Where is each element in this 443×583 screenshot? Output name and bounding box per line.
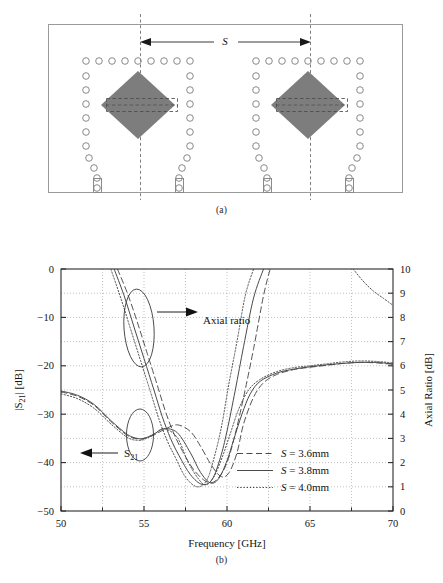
ytick-label-right: 0 [400, 506, 405, 517]
ytick-label-right: 1 [400, 481, 405, 492]
figure-container: S [0, 0, 443, 583]
ytick-label-right: 10 [400, 264, 411, 275]
caption-panel-b: (b) [0, 555, 443, 565]
y-axis-label-left: |S21| [dB] [12, 369, 27, 410]
xtick-label: 70 [388, 518, 399, 529]
arrowhead-axial-ratio [186, 308, 198, 317]
ytick-label-left: −20 [38, 360, 54, 371]
antenna-layout-diagram: S [0, 0, 443, 200]
ytick-label-right: 2 [400, 457, 405, 468]
legend-label-2: S = 4.0mm [281, 481, 330, 493]
ytick-label-right: 8 [400, 312, 405, 323]
ytick-label-right: 4 [400, 409, 406, 420]
ytick-label-left: −10 [38, 312, 54, 323]
xtick-label: 55 [139, 518, 150, 529]
ytick-label-right: 6 [400, 360, 405, 371]
ytick-label-right: 7 [400, 336, 405, 347]
xtick-label: 50 [56, 518, 67, 529]
curve-axial-ratio-tail-s-4-0mm [353, 269, 393, 305]
svg-text:|S21| [dB]: |S21| [dB] [12, 369, 27, 410]
dimension-label-s: S [222, 35, 228, 47]
ytick-label-left: 0 [49, 264, 54, 275]
x-axis-label: Frequency [GHz] [188, 537, 265, 549]
caption-panel-a: (a) [0, 205, 443, 215]
y-axis-label-right: Axial Ratio [dB] [422, 353, 434, 427]
ytick-label-right: 5 [400, 385, 405, 396]
legend-label-0: S = 3.6mm [281, 447, 330, 459]
legend-label-1: S = 3.8mm [281, 464, 330, 476]
ytick-label-right: 9 [400, 288, 405, 299]
curve-axial-ratio-s-3-6mm [117, 269, 270, 483]
ytick-label-left: −50 [38, 506, 54, 517]
ytick-label-right: 3 [400, 433, 405, 444]
sparameter-axialratio-chart: 0−10−20−30−40−500123456789105055606570Fr… [0, 223, 443, 583]
ytick-label-left: −40 [38, 457, 54, 468]
xtick-label: 60 [222, 518, 233, 529]
ytick-label-left: −30 [38, 409, 54, 420]
xtick-label: 65 [305, 518, 316, 529]
annotation-s21: S21 [124, 447, 138, 462]
arrowhead-s21 [80, 449, 92, 458]
annotation-axial-ratio: Axial ratio [203, 314, 251, 326]
